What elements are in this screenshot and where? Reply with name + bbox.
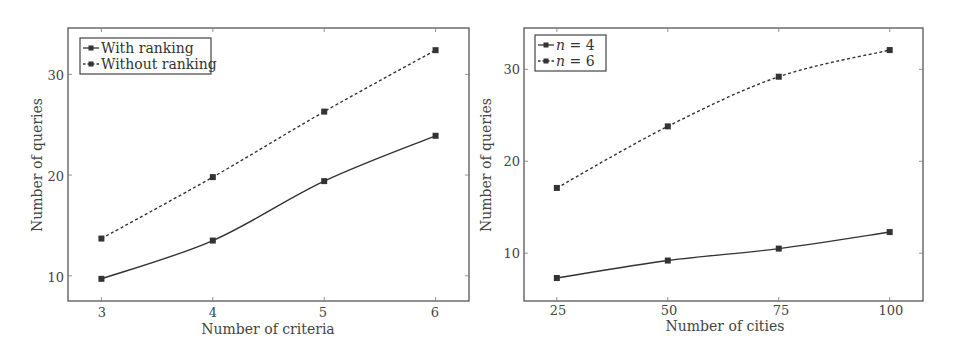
y-tick-label: 10 (47, 270, 64, 285)
series-line-solid (557, 232, 890, 278)
data-point-marker-icon (554, 275, 560, 281)
data-point-marker-icon (210, 238, 216, 244)
legend: n = 4 n = 6 (535, 35, 606, 71)
data-point-marker-icon (554, 185, 560, 191)
data-point-marker-icon (98, 236, 104, 242)
x-tick-label: 6 (431, 305, 439, 320)
x-tick-label: 50 (661, 303, 678, 318)
y-tick-label: 20 (503, 154, 520, 169)
legend-marker-icon (544, 43, 549, 48)
data-point-marker-icon (887, 229, 893, 235)
legend-value: = 6 (565, 53, 595, 69)
x-tick-label: 3 (98, 305, 106, 320)
y-tick-label: 30 (47, 68, 64, 83)
figure-canvas: 3 4 5 6 10 20 30 Number of criteria Numb… (0, 0, 953, 355)
y-axis-label: Number of queries (29, 98, 45, 232)
legend-marker-icon (89, 46, 94, 51)
x-axis-label: Number of criteria (201, 321, 334, 337)
series-lines (554, 47, 893, 281)
x-tick-label: 75 (773, 303, 790, 318)
x-tick-labels: 3 4 5 6 (98, 305, 439, 320)
y-tick-label: 20 (47, 169, 64, 184)
x-tick-label: 4 (209, 305, 217, 320)
data-point-marker-icon (321, 178, 327, 184)
data-point-marker-icon (433, 47, 439, 53)
data-point-marker-icon (776, 246, 782, 252)
legend-label: Without ranking (101, 56, 217, 72)
series-line-dashed (101, 50, 435, 238)
legend-marker-icon (544, 59, 549, 64)
legend-marker-icon (89, 62, 94, 67)
x-tick-labels: 25 50 75 100 (550, 303, 904, 318)
x-tick-label: 5 (319, 305, 327, 320)
chart-cities: 25 50 75 100 10 20 30 Number of cities N… (478, 28, 923, 334)
data-point-marker-icon (321, 109, 327, 115)
data-point-marker-icon (433, 133, 439, 139)
series-lines (98, 47, 438, 282)
legend-label: With ranking (101, 40, 194, 56)
y-tick-label: 10 (503, 246, 520, 261)
legend-label: n = 4 (556, 37, 595, 53)
chart-criteria: 3 4 5 6 10 20 30 Number of criteria Numb… (29, 28, 469, 337)
legend-value: = 4 (565, 37, 595, 53)
y-tick-labels: 10 20 30 (503, 62, 520, 261)
series-line-solid (101, 136, 435, 279)
legend-label: n = 6 (556, 53, 595, 69)
data-point-marker-icon (665, 123, 671, 129)
x-tick-label: 100 (879, 303, 904, 318)
data-point-marker-icon (210, 174, 216, 180)
x-axis-label: Number of cities (666, 318, 785, 334)
data-point-marker-icon (98, 276, 104, 282)
legend-variable: n (556, 53, 565, 69)
data-point-marker-icon (887, 47, 893, 53)
x-tick-label: 25 (550, 303, 567, 318)
data-point-marker-icon (665, 258, 671, 264)
series-line-dashed (557, 50, 890, 188)
legend: With ranking Without ranking (80, 38, 217, 74)
legend-variable: n (556, 37, 565, 53)
y-tick-labels: 10 20 30 (47, 68, 64, 285)
y-tick-label: 30 (503, 62, 520, 77)
y-axis-label: Number of queries (478, 98, 494, 232)
data-point-marker-icon (776, 74, 782, 80)
